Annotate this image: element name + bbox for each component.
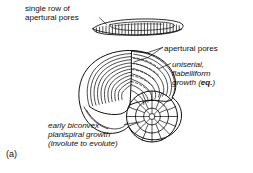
figure-label: (a): [6, 150, 17, 159]
annotation-apertural-pores: apertural pores: [164, 44, 218, 53]
annotation-uniserial-close: ): [212, 78, 215, 87]
planispiral-coil: [127, 91, 178, 142]
foraminifera-edge-view-icon: [93, 19, 183, 35]
annotation-early-biconvex-planispiral-growth: early biconvex planispiral growth (invol…: [48, 121, 118, 149]
annotation-uniserial-emphasis: eq.: [201, 78, 213, 87]
annotation-uniserial-flabelliform-growth: uniserial, flabelliform growth (eq.): [172, 60, 215, 88]
median-suture: [130, 51, 132, 105]
foraminifera-line-drawing: [0, 0, 253, 173]
dashed-sutures: [131, 58, 160, 92]
annotation-single-row-of-apertural-pores: single row of apertural pores: [25, 4, 79, 22]
figure-panel: single row of apertural pores apertural …: [0, 0, 253, 173]
